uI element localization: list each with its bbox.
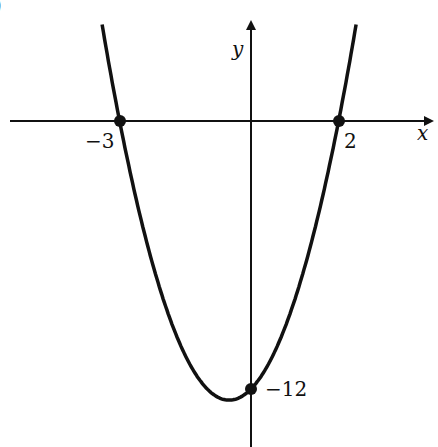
root-label-right: 2	[344, 129, 357, 153]
x-axis-label: x	[417, 121, 428, 145]
parabola-graph: ) y x −3 2 −12	[0, 0, 438, 447]
root-point-right	[333, 115, 345, 127]
y-axis-label: y	[231, 37, 244, 61]
corner-mark: )	[0, 0, 2, 17]
y-intercept-label: −12	[265, 377, 307, 401]
root-point-left	[114, 115, 126, 127]
graph-canvas: ) y x −3 2 −12	[0, 0, 438, 447]
root-label-left: −3	[85, 129, 114, 153]
parabola-curve	[102, 25, 356, 401]
y-intercept-point	[245, 383, 257, 395]
